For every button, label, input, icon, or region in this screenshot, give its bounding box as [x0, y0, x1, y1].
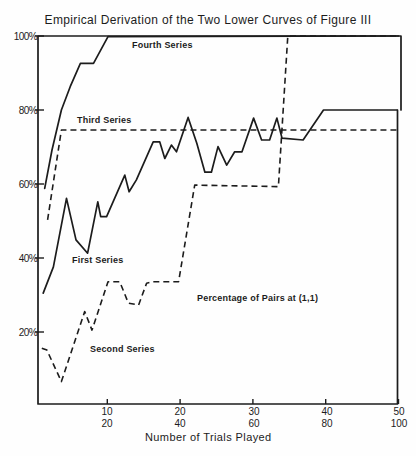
- y-tick-label-60: 60%: [19, 179, 38, 190]
- x-tick-label-10: 10: [101, 406, 113, 417]
- first-series-label: First Series: [72, 255, 123, 265]
- x-tick-label-secondary-20: 20: [101, 418, 113, 429]
- y-tick-label-20: 20%: [19, 327, 38, 338]
- third-series-label: Third Series: [77, 115, 131, 125]
- x-axis-label: Number of Trials Played: [145, 431, 272, 443]
- y-tick-label-40: 40%: [19, 253, 38, 264]
- x-tick-label-30: 30: [248, 406, 260, 417]
- x-tick-label-secondary-80: 80: [321, 418, 333, 429]
- chart-title: Empirical Derivation of the Two Lower Cu…: [45, 13, 372, 27]
- second-series-label: Second Series: [90, 344, 155, 354]
- x-tick-label-secondary-100: 100: [391, 418, 408, 429]
- second-series-line: [42, 36, 399, 382]
- fourth-series-label: Fourth Series: [132, 40, 193, 50]
- percentage-pairs-annotation: Percentage of Pairs at (1,1): [197, 293, 318, 303]
- x-tick-label-secondary-40: 40: [174, 418, 186, 429]
- y-tick-label-80: 80%: [19, 105, 38, 116]
- figure: Empirical Derivation of the Two Lower Cu…: [0, 0, 416, 456]
- x-tick-label-20: 20: [174, 406, 186, 417]
- first-series-line: [43, 110, 397, 293]
- x-tick-label-secondary-60: 60: [248, 418, 260, 429]
- y-tick-label-100: 100%: [14, 31, 38, 42]
- fourth-series-line: [45, 36, 399, 188]
- x-tick-label-40: 40: [321, 406, 333, 417]
- x-tick-label-50: 50: [393, 406, 405, 417]
- third-series-line: [48, 130, 398, 220]
